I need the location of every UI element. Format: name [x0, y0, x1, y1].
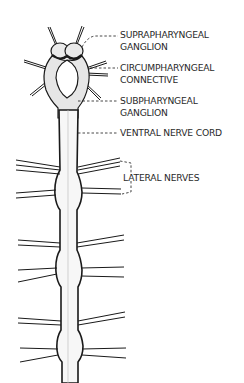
label-suprapharyngeal-ganglion: SUPRAPHARYNGEAL GANGLION	[120, 29, 209, 53]
label-ventral-nerve-cord: VENTRAL NERVE CORD	[120, 127, 222, 139]
label-lateral-nerves: LATERAL NERVES	[123, 172, 199, 184]
label-circumpharyngeal-connective: CIRCUMPHARYNGEAL CONNECTIVE	[120, 62, 214, 86]
circumpharyngeal-connective	[44, 56, 89, 118]
suprapharyngeal-ganglion	[51, 43, 83, 59]
nervous-system-diagram	[0, 0, 244, 383]
label-subpharyngeal-ganglion: SUBPHARYNGEAL GANGLION	[120, 95, 198, 119]
head-nerves	[24, 26, 108, 100]
